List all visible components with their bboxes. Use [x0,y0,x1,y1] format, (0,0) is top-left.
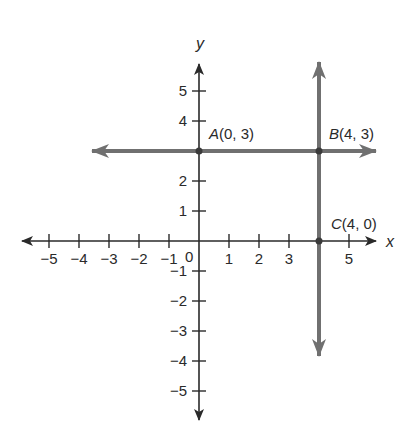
point-c [316,238,323,245]
x-tick-label: −4 [70,250,87,267]
y-tick-label: −2 [170,292,187,309]
point-b [316,148,323,155]
x-tick-label: 2 [255,250,263,267]
x-axis-label: x [385,233,395,250]
y-tick-label: −5 [170,382,187,399]
y-tick-label: −4 [170,352,187,369]
origin-label: 0 [185,248,193,265]
y-tick-label: 1 [179,202,187,219]
y-tick-label: 5 [179,82,187,99]
x-axis: −5−4−3−2−11235 x [22,233,395,267]
coordinate-plane: −5−4−3−2−11235 x 5421−1−2−3−4−5 y 0 A(0,… [0,0,417,444]
x-tick-label: −5 [40,250,57,267]
y-tick-label: 2 [179,172,187,189]
point-a [196,148,203,155]
x-axis-ticks: −5−4−3−2−11235 [40,234,353,267]
point-label-c: C(4, 0) [331,215,377,232]
x-tick-label: −2 [130,250,147,267]
x-tick-label: 3 [285,250,293,267]
x-tick-label: 1 [225,250,233,267]
point-label-b: B(4, 3) [329,125,374,142]
point-label-a: A(0, 3) [208,125,254,142]
points: A(0, 3)B(4, 3)C(4, 0) [196,125,377,245]
y-axis-label: y [195,35,205,52]
x-tick-label: 5 [345,250,353,267]
y-tick-label: −3 [170,322,187,339]
y-axis: 5421−1−2−3−4−5 y [170,35,206,420]
x-tick-label: −3 [100,250,117,267]
y-tick-label: 4 [179,112,187,129]
